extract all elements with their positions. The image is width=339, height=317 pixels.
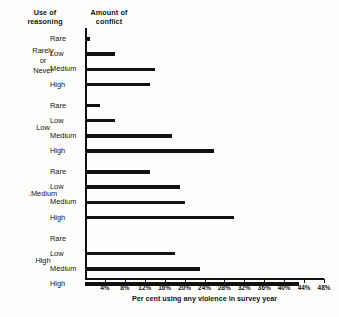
- bar: [85, 267, 200, 271]
- category-label: High: [50, 214, 80, 222]
- bar: [85, 185, 180, 189]
- category-label: Rare: [50, 168, 80, 176]
- bar: [85, 216, 234, 220]
- bar: [85, 149, 214, 153]
- x-axis-tick-label: 40%: [273, 284, 295, 291]
- x-axis-tick-label: 28%: [213, 284, 235, 291]
- bar: [85, 119, 115, 123]
- category-label: Rare: [50, 102, 80, 110]
- column-header-amount-of-conflict-line1: Amount of: [78, 8, 140, 17]
- x-axis-title: Per cent using any violence in survey ye…: [85, 294, 324, 303]
- plot-area: 4%8%12%16%20%24%28%32%36%40%44%48%: [85, 28, 324, 278]
- category-label: High: [50, 81, 80, 89]
- category-label: Medium: [50, 265, 80, 273]
- category-label: Low: [50, 50, 80, 58]
- x-axis-tick-label: 20%: [174, 284, 196, 291]
- x-axis-tick: [205, 279, 206, 283]
- x-axis-tick-label: 4%: [94, 284, 116, 291]
- bar: [85, 134, 172, 138]
- category-label: Medium: [50, 65, 80, 73]
- x-axis-tick: [125, 279, 126, 283]
- column-header-use-of-reasoning: Use of reasoning: [14, 8, 76, 26]
- bar: [85, 170, 150, 174]
- column-header-use-of-reasoning-line1: Use of: [14, 8, 76, 17]
- column-header-amount-of-conflict-line2: conflict: [78, 17, 140, 26]
- x-axis-tick: [324, 279, 325, 283]
- bar: [85, 52, 115, 56]
- x-axis-tick-label: 44%: [293, 284, 315, 291]
- x-axis-tick: [304, 279, 305, 283]
- category-label: High: [50, 147, 80, 155]
- category-label: High: [50, 280, 80, 288]
- category-label: Low: [50, 117, 80, 125]
- category-label: Low: [50, 250, 80, 258]
- x-axis-tick: [105, 279, 106, 283]
- bar: [85, 83, 150, 87]
- category-label: Low: [50, 183, 80, 191]
- x-axis-tick-label: 16%: [154, 284, 176, 291]
- x-axis-tick: [185, 279, 186, 283]
- column-header-use-of-reasoning-line2: reasoning: [14, 17, 76, 26]
- x-axis-tick: [165, 279, 166, 283]
- x-axis-tick-label: 12%: [134, 284, 156, 291]
- x-axis-tick-label: 8%: [114, 284, 136, 291]
- bar: [85, 201, 185, 205]
- category-label: Rare: [50, 235, 80, 243]
- x-axis-tick: [224, 279, 225, 283]
- bar-chart: Use of reasoning Amount of conflict Rare…: [0, 0, 339, 317]
- x-axis-tick: [244, 279, 245, 283]
- bar: [85, 37, 90, 41]
- bar: [85, 104, 100, 108]
- category-label: Rare: [50, 35, 80, 43]
- x-axis-tick-label: 32%: [233, 284, 255, 291]
- bar: [85, 252, 175, 256]
- x-axis-tick: [145, 279, 146, 283]
- x-axis-tick: [264, 279, 265, 283]
- x-axis-tick: [284, 279, 285, 283]
- category-label: Medium: [50, 198, 80, 206]
- x-axis-tick-label: 24%: [194, 284, 216, 291]
- column-header-amount-of-conflict: Amount of conflict: [78, 8, 140, 26]
- y-axis-line: [85, 28, 87, 278]
- bar: [85, 68, 155, 72]
- x-axis-tick-label: 36%: [253, 284, 275, 291]
- x-axis-tick-label: 48%: [313, 284, 335, 291]
- category-label: Medium: [50, 132, 80, 140]
